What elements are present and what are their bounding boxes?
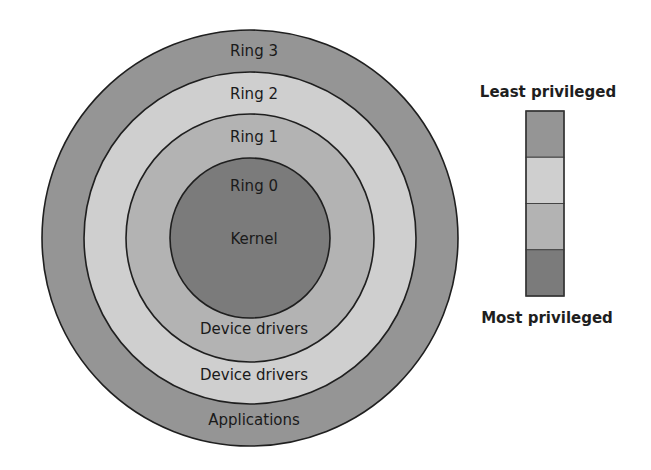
legend-most-privileged-label: Most privileged <box>481 309 613 327</box>
legend-swatch-ring-0 <box>526 250 564 296</box>
privilege-legend: Least privileged Most privileged <box>480 83 616 327</box>
ring-2-role-label: Device drivers <box>200 366 308 384</box>
applications-label: Applications <box>208 411 300 429</box>
ring-1-role-label: Device drivers <box>200 320 308 338</box>
legend-swatch-ring-1 <box>526 204 564 250</box>
ring-0-label: Ring 0 <box>230 177 278 195</box>
legend-swatch-ring-2 <box>526 157 564 203</box>
protection-rings-diagram: Ring 3 Ring 2 Ring 1 Ring 0 Kernel Devic… <box>0 0 651 470</box>
kernel-label: Kernel <box>230 230 277 248</box>
ring-1-label: Ring 1 <box>230 128 278 146</box>
ring-3-label: Ring 3 <box>230 42 278 60</box>
legend-least-privileged-label: Least privileged <box>480 83 616 101</box>
ring-2-label: Ring 2 <box>230 85 278 103</box>
legend-swatch-ring-3 <box>526 111 564 157</box>
